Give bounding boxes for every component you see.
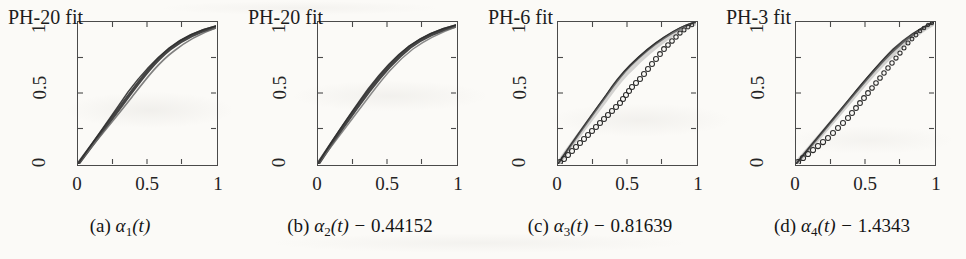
y-tick-label-0: 0 xyxy=(747,149,766,177)
figure-panel-b: 1 0.5 0 xyxy=(240,0,480,259)
data-trace-b xyxy=(318,25,456,164)
figure-panel-c: 1 0.5 0 xyxy=(480,0,720,259)
caption-symbol-c: α xyxy=(554,215,564,236)
plot-area-b xyxy=(317,21,458,166)
caption-index-b: (b) xyxy=(287,215,309,236)
data-markers-c xyxy=(558,23,694,164)
x-tick-label-0: 0 xyxy=(62,174,92,193)
plot-canvas-b xyxy=(318,22,456,164)
caption-arg-a: (t) xyxy=(132,215,150,236)
caption-symbol-b: α xyxy=(314,215,324,236)
x-tick-label-1: 1 xyxy=(683,174,713,193)
y-tick-label-0-5: 0.5 xyxy=(510,65,529,111)
x-tick-label-1: 1 xyxy=(443,174,473,193)
x-tick-label-0: 0 xyxy=(542,174,572,193)
plot-area-d xyxy=(795,21,936,166)
tick-marks-b xyxy=(318,22,456,164)
y-tick-label-0-5: 0.5 xyxy=(748,65,767,111)
panel-caption-b: (b) α2(t) − 0.44152 xyxy=(240,216,480,239)
x-tick-label-1: 1 xyxy=(921,174,951,193)
caption-subscript-d: 4 xyxy=(811,224,818,239)
caption-minus-c: − xyxy=(588,215,610,236)
panel-fit-label-a: PH-20 fit xyxy=(8,7,83,27)
caption-index-a: (a) xyxy=(90,215,111,236)
panel-fit-label-b: PH-20 fit xyxy=(248,7,323,27)
figure-panel-row: 1 0.5 0 xyxy=(0,0,966,259)
y-tick-label-0: 0 xyxy=(269,149,288,177)
y-tick-label-0: 0 xyxy=(29,149,48,177)
panel-fit-label-d: PH-3 fit xyxy=(726,7,791,27)
data-trace-a xyxy=(78,26,216,164)
caption-offset-b: 0.44152 xyxy=(371,215,433,236)
x-tick-label-1: 1 xyxy=(203,174,233,193)
caption-index-d: (d) xyxy=(774,215,796,236)
plot-canvas-a xyxy=(78,22,216,164)
plot-canvas-d xyxy=(796,22,934,164)
caption-minus-d: − xyxy=(836,215,858,236)
caption-offset-c: 0.81639 xyxy=(610,215,672,236)
caption-minus-b: − xyxy=(349,215,371,236)
caption-offset-d: 1.4343 xyxy=(858,215,910,236)
plot-area-c xyxy=(557,21,698,166)
y-tick-label-0: 0 xyxy=(509,149,528,177)
x-tick-label-0-5: 0.5 xyxy=(604,174,650,193)
caption-symbol-a: α xyxy=(116,215,126,236)
x-tick-label-0-5: 0.5 xyxy=(124,174,170,193)
x-tick-label-0: 0 xyxy=(780,174,810,193)
caption-arg-b: (t) xyxy=(331,215,349,236)
figure-panel-a: 1 0.5 0 xyxy=(0,0,240,259)
x-tick-label-0: 0 xyxy=(302,174,332,193)
plot-canvas-c xyxy=(558,22,696,164)
y-tick-label-0-5: 0.5 xyxy=(30,65,49,111)
x-tick-label-0-5: 0.5 xyxy=(364,174,410,193)
caption-symbol-d: α xyxy=(801,215,811,236)
caption-arg-d: (t) xyxy=(818,215,836,236)
tick-marks-a xyxy=(78,22,216,164)
panel-fit-label-c: PH-6 fit xyxy=(488,7,553,27)
panel-caption-a: (a) α1(t) xyxy=(0,216,240,239)
caption-index-c: (c) xyxy=(528,215,549,236)
data-trace-d xyxy=(796,22,934,164)
caption-arg-c: (t) xyxy=(570,215,588,236)
caption-subscript-b: 2 xyxy=(324,224,331,239)
x-tick-label-0-5: 0.5 xyxy=(842,174,888,193)
figure-panel-d: 1 0.5 0 xyxy=(718,0,958,259)
panel-caption-d: (d) α4(t) − 1.4343 xyxy=(718,216,966,239)
plot-area-a xyxy=(77,21,218,166)
y-tick-label-0-5: 0.5 xyxy=(270,65,289,111)
panel-caption-c: (c) α3(t) − 0.81639 xyxy=(480,216,720,239)
